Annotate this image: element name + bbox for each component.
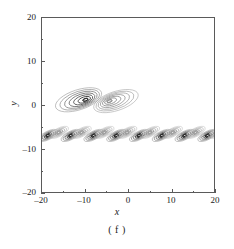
contour-ring (138, 124, 161, 141)
panel-caption: ( f ) (0, 224, 234, 235)
contour-ring (93, 124, 116, 141)
contour-ring (82, 127, 105, 144)
y-tick-minor (41, 171, 43, 172)
figure-panel-f: 20 10 0 –10 –20 –20 –10 0 10 20 y x ( f … (0, 0, 234, 249)
x-tick-major (85, 189, 86, 193)
x-axis-title: x (0, 206, 234, 217)
ytick-label-10: 10 (10, 57, 36, 66)
ytick-label-20: 20 (10, 13, 36, 22)
contour-core (83, 98, 88, 102)
contour-ring (116, 124, 139, 141)
y-tick-minor (41, 83, 43, 84)
y-tick-major (41, 193, 45, 194)
xtick-label-neg10: –10 (71, 196, 97, 205)
y-tick-minor (41, 39, 43, 40)
contour-ring (67, 90, 96, 109)
y-tick-major (41, 105, 45, 106)
x-tick-minor (150, 191, 151, 193)
x-tick-major (215, 189, 216, 193)
xtick-label-neg20: –20 (28, 196, 54, 205)
x-tick-minor (63, 191, 64, 193)
x-tick-minor (193, 191, 194, 193)
ytick-label-neg10: –10 (10, 145, 36, 154)
x-tick-major (128, 189, 129, 193)
y-tick-major (41, 17, 45, 18)
xtick-label-0: 0 (115, 196, 141, 205)
y-tick-minor (41, 127, 43, 128)
contour-ring (99, 92, 127, 110)
x-tick-major (41, 189, 42, 193)
xtick-label-20: 20 (202, 196, 228, 205)
y-axis-title: y (8, 97, 19, 111)
x-tick-minor (106, 191, 107, 193)
y-tick-major (41, 149, 45, 150)
contour-ring (161, 124, 184, 141)
plot-frame (41, 17, 215, 193)
xtick-label-10: 10 (158, 196, 184, 205)
x-tick-major (172, 189, 173, 193)
contour-ring (184, 124, 207, 141)
contour-ring (128, 127, 151, 144)
contour-ring (47, 124, 70, 141)
contour-ring (173, 127, 196, 144)
y-tick-major (41, 61, 45, 62)
contour-canvas (42, 18, 214, 192)
contour-ring (70, 124, 93, 141)
